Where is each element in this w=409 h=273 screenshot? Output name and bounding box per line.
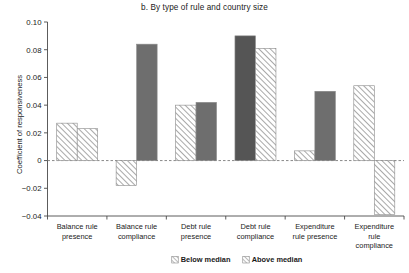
category-label: rule	[368, 232, 380, 241]
bar	[235, 36, 256, 161]
x-axis	[48, 216, 405, 220]
bar	[77, 129, 98, 161]
category-label: Expenditure	[355, 222, 394, 231]
bar	[137, 44, 158, 160]
bar	[294, 151, 315, 161]
category-label: Balance rule	[57, 222, 98, 231]
y-tick-label: −0.04	[22, 212, 42, 221]
legend-swatch	[243, 257, 250, 264]
category-label: presence	[62, 232, 92, 241]
category-label: presence	[181, 232, 211, 241]
y-tick-label: 0	[37, 156, 42, 165]
category-labels: Balance rulepresenceBalance rulecomplian…	[57, 222, 394, 250]
bar	[315, 91, 336, 160]
y-tick-label: 0.10	[26, 18, 42, 27]
bars	[57, 36, 395, 215]
y-tick-label: 0.02	[26, 129, 41, 138]
bar	[255, 48, 276, 160]
bar	[374, 161, 395, 215]
y-tick-label: 0.04	[26, 101, 42, 110]
bar	[116, 161, 137, 186]
category-label: compliance	[237, 232, 274, 241]
y-axis-ticks: −0.04−0.0200.020.040.060.080.10	[22, 18, 48, 221]
category-label: Expenditure	[295, 222, 334, 231]
chart-legend: Below medianAbove median	[172, 255, 303, 264]
y-tick-label: 0.08	[26, 46, 41, 55]
plot-area: −0.04−0.0200.020.040.060.080.10 Balance …	[0, 0, 409, 273]
bar	[196, 102, 217, 160]
category-label: Debt rule	[241, 222, 271, 231]
bar	[176, 105, 197, 160]
category-label: Balance rule	[116, 222, 157, 231]
category-label: rule presence	[293, 232, 338, 241]
legend-swatch	[172, 257, 179, 264]
legend-label: Below median	[181, 255, 231, 264]
bar	[354, 86, 375, 161]
category-label: compliance	[356, 241, 393, 250]
bar	[57, 123, 78, 160]
chart-figure: b. By type of rule and country size Coef…	[0, 0, 409, 273]
legend-label: Above median	[252, 255, 303, 264]
category-label: compliance	[118, 232, 155, 241]
y-tick-label: −0.02	[22, 184, 42, 193]
category-label: Debt rule	[181, 222, 211, 231]
y-tick-label: 0.06	[26, 73, 41, 82]
